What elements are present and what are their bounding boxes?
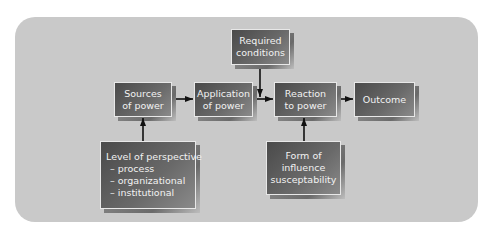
- node-label-line: Level of perspective: [106, 151, 202, 163]
- node-label-line: – organizational: [106, 175, 185, 187]
- node-label-line: susceptability: [271, 174, 337, 186]
- node-label-line: to power: [285, 100, 327, 112]
- node-label-line: Sources: [124, 88, 162, 100]
- node-label-line: influence: [282, 162, 326, 174]
- node-label-line: Outcome: [363, 94, 406, 106]
- node-outcome: Outcome: [354, 82, 415, 117]
- node-label-line: Required: [239, 35, 281, 47]
- node-label-line: – process: [106, 163, 154, 175]
- node-label-line: Application: [197, 88, 250, 100]
- node-label-line: conditions: [236, 47, 285, 59]
- node-level-of-perspective: Level of perspective – process – organiz…: [100, 141, 196, 209]
- node-application-of-power: Application of power: [194, 82, 253, 117]
- node-form-of-influence: Form of influence susceptability: [266, 141, 341, 195]
- node-label-line: of power: [203, 100, 245, 112]
- node-label-line: of power: [122, 100, 164, 112]
- node-label-line: Reaction: [285, 88, 326, 100]
- node-reaction-to-power: Reaction to power: [274, 82, 337, 117]
- node-sources-of-power: Sources of power: [114, 82, 172, 117]
- node-label-line: – institutional: [106, 187, 174, 199]
- node-label-line: Form of: [285, 150, 321, 162]
- node-required-conditions: Required conditions: [231, 29, 290, 65]
